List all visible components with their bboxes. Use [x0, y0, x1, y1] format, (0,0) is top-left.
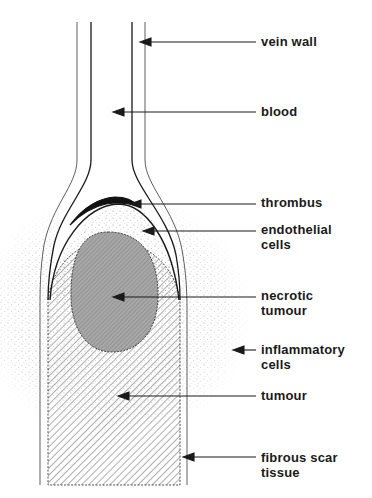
- label-tumour: tumour: [261, 388, 307, 403]
- label-thrombus: thrombus: [261, 195, 323, 210]
- necrotic-tumour-region: [71, 232, 158, 352]
- label-inflammatory-cells: inflammatory cells: [261, 342, 345, 372]
- label-endothelial-cells: endothelial cells: [261, 222, 332, 252]
- label-fibrous-scar-tissue: fibrous scar tissue: [261, 450, 338, 480]
- label-necrotic-tumour: necrotic tumour: [261, 288, 313, 318]
- label-blood: blood: [261, 104, 297, 119]
- label-vein-wall: vein wall: [261, 34, 317, 49]
